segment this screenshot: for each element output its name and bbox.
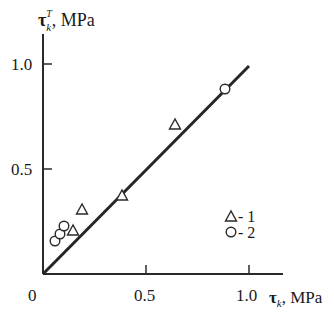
y-axis-title: τkT, MPa — [38, 8, 95, 33]
x-axis-title: τk, MPa — [269, 288, 323, 309]
y-tick-label-1.0: 1.0 — [11, 55, 32, 74]
circle-marker — [59, 221, 69, 231]
series-2-circles — [50, 84, 230, 246]
x-tick-label-1.0: 1.0 — [236, 286, 257, 305]
y-tick-label-0.5: 0.5 — [11, 160, 32, 179]
circle-marker — [220, 84, 230, 94]
scatter-plot: τkT, MPa 1.0 0.5 0 0.5 1.0 τk, MPa - 1 -… — [0, 0, 334, 316]
triangle-marker — [77, 204, 88, 214]
series-1-triangles — [68, 119, 181, 235]
reference-line — [43, 66, 249, 274]
legend: - 1 - 2 — [226, 208, 256, 241]
triangle-marker — [170, 119, 181, 129]
legend-label-1: - 1 — [238, 208, 255, 225]
legend-circle-icon — [226, 227, 236, 237]
x-tick-label-0.5: 0.5 — [134, 286, 155, 305]
legend-triangle-icon — [226, 211, 237, 221]
legend-label-2: - 2 — [238, 224, 255, 241]
origin-label: 0 — [28, 286, 37, 305]
